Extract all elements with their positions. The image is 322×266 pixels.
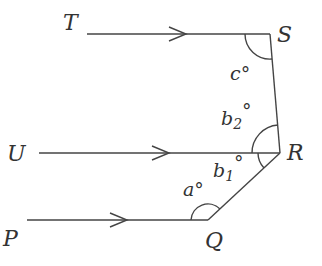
arc-b2 — [252, 125, 278, 153]
angle-a-label: a° — [183, 178, 204, 200]
label-Q: Q — [205, 228, 223, 253]
label-U: U — [7, 141, 27, 166]
b2-base: b — [221, 107, 233, 129]
b2-deg: ° — [242, 99, 252, 121]
line-SR — [270, 34, 280, 153]
label-P: P — [2, 226, 19, 251]
angle-b2-label: b2° — [221, 99, 252, 132]
label-S: S — [277, 22, 292, 47]
b1-sub: 1 — [225, 168, 234, 184]
label-T: T — [63, 10, 80, 35]
b2-sub: 2 — [232, 116, 242, 132]
angle-b1-label: b1° — [213, 151, 244, 184]
arc-c — [245, 34, 272, 59]
b1-base: b — [213, 159, 225, 181]
label-R: R — [286, 140, 304, 165]
arc-b1 — [258, 153, 264, 168]
angle-c-label: c° — [230, 62, 250, 84]
b1-deg: ° — [234, 151, 244, 173]
diagram-canvas: T S U R P Q c° b2° b1° a° — [0, 0, 322, 266]
parallel-lines-diagram: T S U R P Q c° b2° b1° a° — [0, 0, 322, 266]
